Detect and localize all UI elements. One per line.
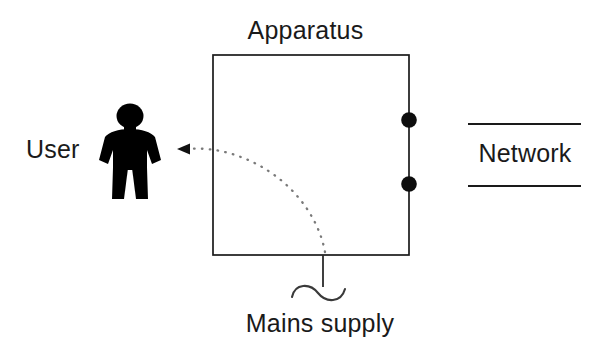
apparatus-box bbox=[213, 55, 409, 255]
diagram-graphics-layer bbox=[0, 0, 611, 355]
diagram-canvas: Apparatus User Network Mains supply bbox=[0, 0, 611, 355]
mains-ac-waveform-icon bbox=[292, 286, 345, 300]
user-figure-icon bbox=[99, 104, 161, 200]
hazard-path-arrowhead-icon bbox=[177, 144, 190, 155]
network-terminal-upper-icon bbox=[401, 112, 417, 128]
network-terminal-lower-icon bbox=[401, 176, 417, 192]
